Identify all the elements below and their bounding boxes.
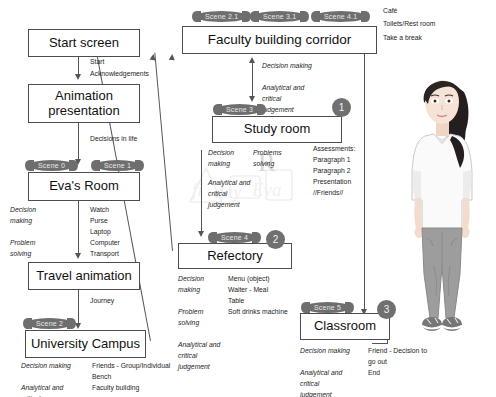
step-number-2-label: 2 <box>273 234 279 245</box>
box-travel-animation-label: Travel animation <box>36 269 132 284</box>
arrowhead-studyroom-to-refectory <box>198 231 204 237</box>
step-number-2[interactable]: 2 <box>266 230 285 249</box>
pill-scene-4-1[interactable]: Scene 4.1 <box>315 11 366 22</box>
objects-refectory: Menu (object) Waiter - Meal Table Soft d… <box>228 273 308 317</box>
character-illustration-eva <box>394 60 490 345</box>
pill-scene-2-1[interactable]: Scene 2.1 <box>196 11 247 22</box>
pill-scene-2[interactable]: Scene 2 <box>27 318 72 329</box>
box-animation-presentation-label-1: Animation <box>55 89 113 104</box>
pill-scene-4-label: Scene 4 <box>221 234 248 241</box>
connector-corridor-studyroom <box>252 62 253 100</box>
skills-classroom: Decision making Analytical and critical … <box>300 345 362 397</box>
edge-label-journey: Journey <box>90 295 114 306</box>
diagram-canvas: fi day Eva R Start screen Animation pres… <box>0 0 496 397</box>
pill-scene-3-1-label: Scene 3.1 <box>263 13 296 20</box>
objects-study-room: Assessments: Paragraph 1 Paragraph 2 Pre… <box>313 143 379 198</box>
box-university-campus[interactable]: University Campus <box>25 330 146 358</box>
skills-corridor-study: Decision making Analytical and critical … <box>262 60 324 115</box>
connector-animation-to-evasroom <box>78 120 79 162</box>
edge-label-decisions-in-life: Decisions in life <box>90 133 137 144</box>
skills-refectory: Decision making Problem solving Analytic… <box>178 273 224 372</box>
connector-studyroom-to-refectory <box>201 150 202 234</box>
connector-evasroom-to-travel <box>78 199 79 256</box>
pill-scene-5[interactable]: Scene 5 <box>305 302 350 313</box>
right-side-labels: Café Toilets/Rest room Take a break <box>383 4 436 44</box>
box-evas-room-label: Eva's Room <box>49 179 119 194</box>
box-animation-presentation-label-2: presentation <box>48 104 120 119</box>
step-number-1-label: 1 <box>339 102 345 113</box>
arrowhead-studyroom-to-corridor <box>249 57 255 63</box>
box-classroom-label: Classroom <box>314 319 376 334</box>
box-travel-animation[interactable]: Travel animation <box>28 262 140 290</box>
box-faculty-building-corridor-label: Faculty building corridor <box>208 32 351 47</box>
arrowhead-start-to-animation <box>75 74 81 80</box>
pill-scene-2-label: Scene 2 <box>36 320 63 327</box>
step-number-3-label: 3 <box>384 304 390 315</box>
box-animation-presentation[interactable]: Animation presentation <box>28 84 140 123</box>
pill-scene-4[interactable]: Scene 4 <box>212 232 257 243</box>
step-number-1[interactable]: 1 <box>332 98 351 117</box>
arrowhead-campus-to-corridor <box>150 54 157 61</box>
pill-scene-0[interactable]: Scene 0 <box>29 160 74 171</box>
pill-scene-1-label: Scene 1 <box>104 162 131 169</box>
objects-classroom: Friend - Decision to go out End <box>368 345 438 378</box>
step-number-3[interactable]: 3 <box>377 300 396 319</box>
box-evas-room[interactable]: Eva's Room <box>28 172 140 201</box>
skills-university-campus: Decision making Analytical and critical … <box>21 360 87 397</box>
right-label-cafe: Café <box>383 4 436 17</box>
right-label-take-a-break: Take a break <box>383 31 436 44</box>
skills-study-room-problems: Problems solving <box>253 147 297 169</box>
arrowhead-evasroom-to-travel <box>75 253 81 259</box>
pill-scene-5-label: Scene 5 <box>314 304 341 311</box>
edge-label-acknowledgements: Acknowledgements <box>90 68 149 79</box>
pill-scene-3-1[interactable]: Scene 3.1 <box>254 11 305 22</box>
box-start-screen-label: Start screen <box>49 36 119 51</box>
pill-scene-3-label: Scene 3 <box>226 106 253 113</box>
right-label-toilets: Toilets/Rest room <box>383 17 436 30</box>
box-faculty-building-corridor[interactable]: Faculty building corridor <box>182 26 377 54</box>
skills-evas-room: Decision making Problem solving <box>10 204 72 259</box>
box-refectory-label: Refectory <box>207 249 263 264</box>
pill-scene-4-1-label: Scene 4.1 <box>324 13 357 20</box>
connector-travel-to-campus <box>78 288 79 326</box>
skills-study-room-analytical: Analytical and critical judgement <box>208 177 270 210</box>
box-start-screen[interactable]: Start screen <box>28 29 140 57</box>
arrowhead-refectory-to-corridor <box>169 54 175 60</box>
box-classroom[interactable]: Classroom <box>300 313 390 340</box>
edge-label-start: Start <box>90 56 104 67</box>
skills-study-room-decision: Decision making <box>208 147 248 169</box>
arrowhead-corridor-to-studyroom <box>249 96 255 102</box>
pill-scene-0-label: Scene 0 <box>38 162 65 169</box>
box-university-campus-label: University Campus <box>31 337 140 352</box>
box-study-room[interactable]: Study room <box>212 116 342 143</box>
pill-scene-3[interactable]: Scene 3 <box>217 104 262 115</box>
pill-scene-2-1-label: Scene 2.1 <box>205 13 238 20</box>
connector-classroom-stub-h <box>372 343 388 344</box>
pill-scene-1[interactable]: Scene 1 <box>95 160 140 171</box>
objects-evas-room: Watch Purse Laptop Computer Transport <box>90 204 160 259</box>
box-study-room-label: Study room <box>244 122 310 137</box>
